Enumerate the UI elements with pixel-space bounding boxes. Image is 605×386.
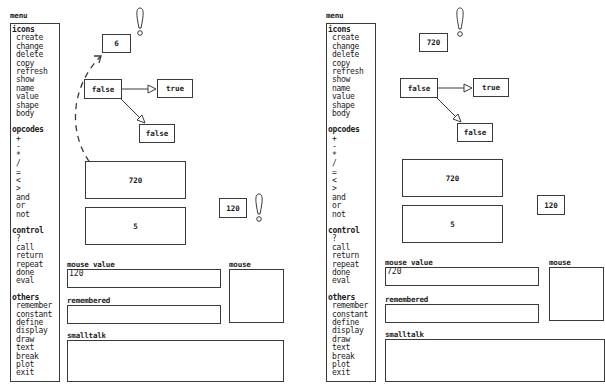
graph-node-false-root[interactable]: false xyxy=(84,79,122,99)
mouse-value-label: mouse value xyxy=(67,261,114,269)
top-value-box[interactable]: 6 xyxy=(102,34,131,53)
exclamation-icon xyxy=(137,8,143,35)
right-panel: menu icons create change delete copy ref… xyxy=(316,0,572,386)
smalltalk-field[interactable] xyxy=(385,339,605,382)
mouse-value-text: 720 xyxy=(387,268,401,276)
smalltalk-label: smalltalk xyxy=(385,331,424,339)
graph-node-false-root[interactable]: false xyxy=(400,78,438,98)
graph-node-false-branch[interactable]: false xyxy=(139,124,175,143)
exclamation-icon xyxy=(256,194,262,221)
left-panel: menu icons create change delete copy ref… xyxy=(0,0,316,386)
mouse-value-field[interactable]: 720 xyxy=(385,267,539,286)
result-box[interactable]: 120 xyxy=(537,195,565,215)
stack-cell-top[interactable]: 720 xyxy=(85,161,186,199)
top-value-box[interactable]: 720 xyxy=(419,33,448,52)
stack-cell-bottom[interactable]: 5 xyxy=(85,207,186,245)
mouse-label: mouse xyxy=(229,261,251,269)
smalltalk-label: smalltalk xyxy=(67,332,106,340)
stack-cell-bottom[interactable]: 5 xyxy=(402,205,503,243)
graph-node-true[interactable]: true xyxy=(473,78,509,97)
result-box[interactable]: 120 xyxy=(219,198,247,218)
exclamation-icon xyxy=(457,8,463,36)
mouse-value-label: mouse value xyxy=(385,259,432,267)
stack-cell-top[interactable]: 720 xyxy=(402,159,503,197)
mouse-value-field[interactable]: 120 xyxy=(67,269,221,288)
graph-node-false-branch[interactable]: false xyxy=(457,123,493,142)
smalltalk-field[interactable] xyxy=(67,340,284,382)
mouse-area[interactable] xyxy=(549,267,604,321)
remembered-field[interactable] xyxy=(385,304,539,323)
mouse-area[interactable] xyxy=(229,269,284,323)
mouse-label: mouse xyxy=(549,259,571,267)
remembered-field[interactable] xyxy=(67,305,221,324)
graph-node-true[interactable]: true xyxy=(157,79,193,98)
mouse-value-text: 120 xyxy=(69,270,83,278)
remembered-label: remembered xyxy=(385,296,428,304)
remembered-label: remembered xyxy=(67,297,110,305)
dashed-drag-arc xyxy=(75,57,100,170)
